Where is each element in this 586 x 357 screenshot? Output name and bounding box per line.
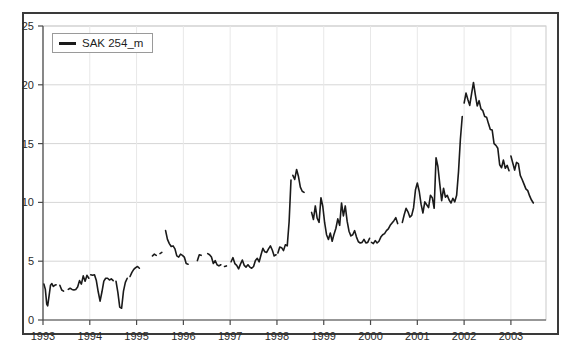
plot-background xyxy=(43,26,546,320)
plot-area-border xyxy=(43,26,546,320)
x-tick-label: 2000 xyxy=(358,330,382,342)
x-tick-label: 1997 xyxy=(218,330,242,342)
series-line-segment xyxy=(160,252,162,253)
chart-legend: SAK 254_m xyxy=(52,33,153,53)
y-tick-label: 25 xyxy=(22,20,34,32)
x-tick-label: 2002 xyxy=(452,330,476,342)
x-tick-label: 1999 xyxy=(312,330,336,342)
line-chart: 0510152025 19931994199519961997199819992… xyxy=(0,0,586,357)
series-line-segment xyxy=(225,266,227,267)
x-tick-label: 2001 xyxy=(405,330,429,342)
x-tick-label: 1998 xyxy=(265,330,289,342)
y-axis-ticks xyxy=(38,26,43,320)
x-tick-label: 1996 xyxy=(171,330,195,342)
legend-swatch-sak-254-m xyxy=(59,42,76,45)
y-tick-label: 5 xyxy=(28,255,34,267)
y-tick-label: 15 xyxy=(22,138,34,150)
x-axis-ticks xyxy=(43,320,511,325)
y-tick-label: 20 xyxy=(22,79,34,91)
x-tick-label: 2003 xyxy=(499,330,523,342)
chart-figure: 0510152025 19931994199519961997199819992… xyxy=(0,0,586,357)
x-tick-label: 1994 xyxy=(78,330,102,342)
x-axis-tick-labels: 1993199419951996199719981999200020012002… xyxy=(31,330,523,342)
y-axis-tick-labels: 0510152025 xyxy=(22,20,34,326)
y-tick-label: 0 xyxy=(28,314,34,326)
x-tick-label: 1995 xyxy=(124,330,148,342)
x-tick-label: 1993 xyxy=(31,330,55,342)
legend-label-sak-254-m: SAK 254_m xyxy=(82,37,143,49)
y-tick-label: 10 xyxy=(22,196,34,208)
